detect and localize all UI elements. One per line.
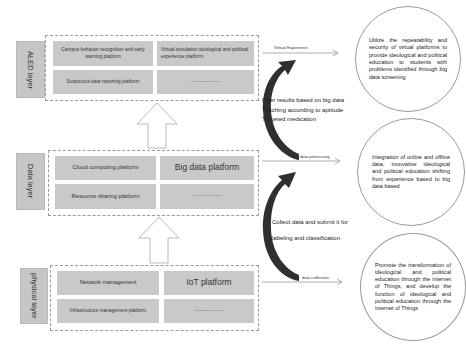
flow-label-virtual-experience: Virtual Experience bbox=[274, 45, 308, 50]
note-line: Filter results based on big data bbox=[262, 96, 344, 106]
outcome-circle-aled: Utilize the repeatability and security o… bbox=[355, 6, 461, 112]
platform-placeholder: —————— bbox=[160, 184, 254, 209]
flow-label-data-collection: data collection bbox=[302, 275, 329, 280]
outcome-circle-data: Integration of online and offline data, … bbox=[357, 118, 465, 226]
layer-label-physical: physical layer bbox=[20, 268, 48, 324]
transition-note-physical-to-data: Collect data and submit it for labeling … bbox=[272, 215, 348, 246]
curved-arrow-icon bbox=[263, 60, 299, 281]
outcome-text: Utilize the repeatability and security o… bbox=[369, 37, 447, 81]
note-line: Collect data and submit it for bbox=[272, 215, 348, 231]
platform-campus-behavior: Campus behavior recognition and early wa… bbox=[53, 41, 153, 66]
layer-label-text: Data layer bbox=[26, 164, 35, 198]
platform-cloud-computing: Cloud computing platform bbox=[55, 156, 156, 180]
note-line: labeling and classification bbox=[272, 231, 348, 247]
platform-infrastructure-management: Infrastructure management platform bbox=[57, 299, 159, 323]
outcome-text: Promote the transformation of ideologica… bbox=[375, 262, 451, 313]
outcome-circle-physical: Promote the transformation of ideologica… bbox=[360, 233, 466, 341]
physical-layer-container: Network management IoT platform Infrastr… bbox=[50, 265, 259, 331]
platform-suspicious-data: Suspicious data reporting platform bbox=[53, 70, 153, 94]
platform-network-management: Network management bbox=[57, 271, 159, 295]
flow-label-data-processing: data processing bbox=[300, 154, 330, 159]
layer-label-aled: ALED layer bbox=[16, 41, 45, 98]
layer-label-data: Data layer bbox=[16, 153, 45, 210]
note-line: Targeted medication bbox=[262, 115, 344, 125]
platform-placeholder: —————— bbox=[164, 299, 254, 323]
platform-placeholder: —————— bbox=[157, 70, 254, 94]
platform-virtual-simulation: Virtual simulation ideological and polit… bbox=[157, 41, 254, 66]
platform-big-data: Big data platform bbox=[160, 156, 254, 180]
transition-note-data-to-aled: Filter results based on big data Teachin… bbox=[262, 96, 344, 125]
aled-layer-container: Campus behavior recognition and early wa… bbox=[45, 35, 259, 101]
layer-label-text: physical layer bbox=[30, 273, 39, 318]
platform-resource-sharing: Resource sharing platform bbox=[55, 184, 156, 209]
data-layer-container: Cloud computing platform Big data platfo… bbox=[48, 150, 259, 216]
outcome-text: Integration of online and offline data, … bbox=[372, 154, 450, 190]
layer-label-text: ALED layer bbox=[26, 51, 35, 89]
note-line: Teaching according to aptitude bbox=[262, 106, 344, 116]
platform-iot: IoT platform bbox=[164, 271, 254, 295]
